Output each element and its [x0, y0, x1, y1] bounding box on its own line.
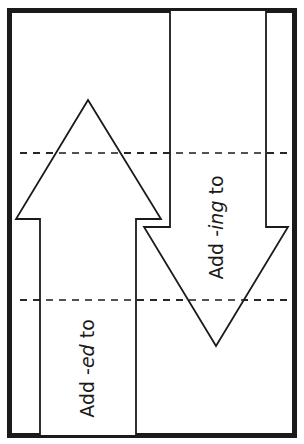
- worksheet-drawing: [0, 0, 304, 444]
- label-postfix: to: [205, 175, 227, 200]
- label-suffix: ed: [76, 344, 98, 368]
- foldable-worksheet: Add -ed to Add -ing to: [0, 0, 304, 444]
- up-arrow-label: Add -ed to: [78, 309, 97, 429]
- label-suffix: ing: [205, 201, 227, 230]
- down-arrow-label: Add -ing to: [207, 166, 226, 290]
- label-prefix: Add -: [76, 368, 98, 418]
- label-postfix: to: [76, 319, 98, 344]
- label-prefix: Add -: [205, 230, 227, 280]
